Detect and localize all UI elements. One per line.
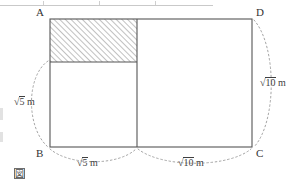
figure-caption-mark: 図	[14, 168, 25, 179]
measure-label-bottom-right-width: √10m	[177, 157, 204, 168]
vertex-label-a: A	[36, 7, 44, 18]
unit-label: m	[278, 77, 286, 88]
geometry-diagram	[0, 0, 304, 189]
radical-symbol: √	[177, 158, 184, 168]
measure-label-bottom-left-width: √5m	[76, 157, 98, 168]
radicand-value: 10	[265, 77, 276, 88]
unit-label: m	[27, 96, 35, 107]
figure-canvas: A B C D √5m √5m √10m √10m 図	[0, 0, 304, 189]
radical-symbol: √	[259, 78, 266, 88]
vertex-label-c: C	[256, 148, 263, 159]
radical-symbol: √	[13, 97, 20, 107]
unit-label: m	[196, 157, 204, 168]
hatched-region	[50, 19, 137, 62]
vertex-label-d: D	[256, 7, 264, 18]
measure-label-right-height: √10m	[259, 77, 286, 88]
vertex-label-b: B	[36, 148, 43, 159]
radical-symbol: √	[76, 158, 83, 168]
unit-label: m	[90, 157, 98, 168]
measure-label-left-height: √5m	[13, 96, 35, 107]
radicand-value: 10	[183, 157, 194, 168]
